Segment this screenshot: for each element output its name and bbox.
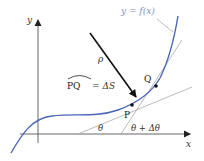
arc-label: PQ xyxy=(67,81,80,91)
curve-label: y = f(x) xyxy=(120,6,155,16)
arc-equals-label: = ΔS xyxy=(92,81,115,91)
y-axis-label: y xyxy=(26,15,33,25)
point-p-label: P xyxy=(124,110,130,120)
point-p xyxy=(130,103,134,107)
arc-symbol xyxy=(68,76,91,80)
point-q xyxy=(154,84,158,88)
angle-theta-delta-label: θ + Δθ xyxy=(131,123,160,133)
diagram-canvas: y x y = f(x) ρ PQ = ΔS P Q θ θ + Δθ xyxy=(0,0,204,161)
radius-label: ρ xyxy=(97,54,104,64)
curve-label-leader xyxy=(157,19,173,32)
curvature-diagram: y x y = f(x) ρ PQ = ΔS P Q θ θ + Δθ xyxy=(0,0,204,161)
point-q-label: Q xyxy=(144,74,151,84)
angle-theta-label: θ xyxy=(98,123,103,133)
tangent-at-q xyxy=(121,40,182,134)
x-axis-label: x xyxy=(186,139,191,149)
